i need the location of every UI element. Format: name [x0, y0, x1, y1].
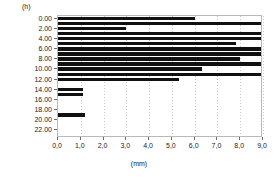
bar — [58, 42, 236, 45]
y-axis-tick-label: 6.00 — [38, 45, 52, 52]
x-axis-tick — [171, 137, 172, 140]
bar-chart: (h) 0.002.004.006.008.0010.0012.0014.001… — [0, 0, 278, 178]
bar — [58, 22, 261, 25]
y-axis-unit-label: (h) — [22, 3, 31, 10]
bar — [58, 47, 261, 50]
x-axis-tick-label: 7,0 — [212, 142, 222, 149]
y-axis-tick-label: 8.00 — [38, 55, 52, 62]
bar — [58, 17, 195, 20]
x-axis-tick — [125, 137, 126, 140]
y-axis-tick-label: 16.00 — [34, 95, 52, 102]
bar — [58, 52, 261, 55]
y-axis-tick-label: 18.00 — [34, 106, 52, 113]
x-axis: 0,01,02,03,04,05,06,07,08,09,0 — [57, 137, 262, 159]
x-axis-tick-label: 5,0 — [166, 142, 176, 149]
x-axis-tick — [216, 137, 217, 140]
x-axis-tick-label: 1,0 — [75, 142, 85, 149]
x-axis-tick — [80, 137, 81, 140]
x-axis-tick — [194, 137, 195, 140]
gridline — [263, 16, 264, 136]
bar — [58, 73, 261, 76]
bar — [58, 37, 261, 40]
x-axis-tick — [148, 137, 149, 140]
y-axis-tick-label: 2.00 — [38, 24, 52, 31]
bar — [58, 93, 83, 96]
bar — [58, 78, 179, 81]
x-axis-tick-label: 9,0 — [257, 142, 267, 149]
y-axis-tick-label: 10.00 — [34, 65, 52, 72]
x-axis-tick-label: 3,0 — [120, 142, 130, 149]
x-axis-tick-label: 8,0 — [234, 142, 244, 149]
bar — [58, 27, 126, 30]
bar — [58, 67, 202, 70]
y-axis-tick-label: 14.00 — [34, 85, 52, 92]
x-axis-tick-label: 6,0 — [189, 142, 199, 149]
x-axis-unit-label: (mm) — [0, 160, 278, 167]
x-axis-tick — [57, 137, 58, 140]
x-axis-tick-label: 4,0 — [143, 142, 153, 149]
bar — [58, 62, 261, 65]
plot-area — [57, 15, 262, 137]
x-axis-tick-label: 0,0 — [52, 142, 62, 149]
y-axis-tick-label: 22.00 — [34, 126, 52, 133]
y-axis-tick-label: 20.00 — [34, 116, 52, 123]
x-axis-tick — [262, 137, 263, 140]
bars-layer — [58, 16, 261, 136]
bar — [58, 88, 83, 91]
y-axis-tick-label: 0.00 — [38, 14, 52, 21]
bar — [58, 57, 240, 60]
x-axis-tick — [239, 137, 240, 140]
y-axis: 0.002.004.006.008.0010.0012.0014.0016.00… — [0, 15, 57, 137]
x-axis-tick-label: 2,0 — [98, 142, 108, 149]
y-axis-tick-label: 12.00 — [34, 75, 52, 82]
y-axis-tick-label: 4.00 — [38, 34, 52, 41]
x-axis-tick — [103, 137, 104, 140]
bar — [58, 32, 261, 35]
bar — [58, 113, 85, 116]
